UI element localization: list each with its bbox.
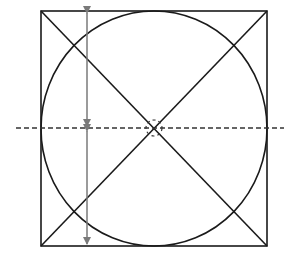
background — [0, 0, 286, 263]
geometry-diagram — [0, 0, 286, 263]
